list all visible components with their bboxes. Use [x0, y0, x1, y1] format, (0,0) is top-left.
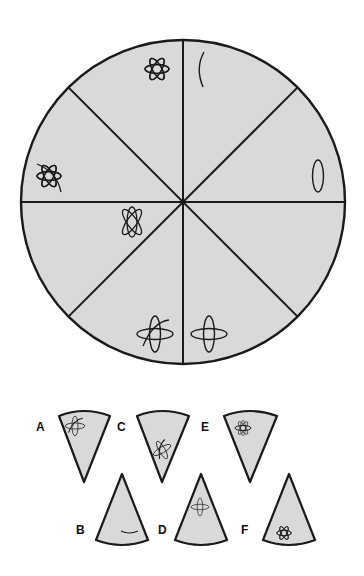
- option-c-label: C: [117, 420, 126, 434]
- option-b-label: B: [76, 523, 85, 537]
- option-f-label: F: [241, 523, 248, 537]
- option-d-piece[interactable]: [175, 474, 227, 545]
- option-e-piece[interactable]: [224, 411, 277, 482]
- option-c-piece[interactable]: [137, 411, 189, 482]
- puzzle-figure: [0, 0, 364, 576]
- option-a-piece[interactable]: [59, 411, 110, 482]
- option-a-label: A: [36, 420, 45, 434]
- option-b-piece[interactable]: [96, 474, 148, 545]
- option-d-label: D: [158, 523, 167, 537]
- option-f-piece[interactable]: [263, 474, 315, 545]
- option-e-label: E: [201, 420, 209, 434]
- puzzle-circle: [21, 40, 345, 364]
